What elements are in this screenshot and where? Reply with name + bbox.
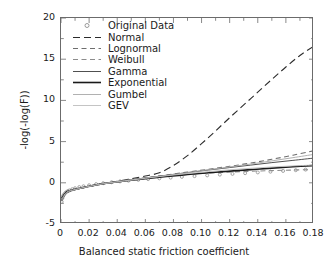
legend-label: Normal (102, 32, 144, 43)
legend-label: Exponential (102, 77, 167, 88)
y-axis-title: -log(-log(F)) (18, 17, 32, 223)
y-tick-label: 5 (29, 136, 55, 146)
legend-item[interactable]: Exponential (72, 77, 200, 88)
x-tick-label: 0.12 (218, 228, 239, 238)
chart-figure: -log(-log(F)) 20151050-5 00.020.040.060.… (0, 0, 328, 268)
x-tick-label: 0.14 (246, 228, 267, 238)
x-tick-label: 0.02 (78, 228, 99, 238)
series-gev (62, 165, 313, 199)
y-tick-label: 15 (29, 53, 55, 63)
legend-item[interactable]: Normal (72, 31, 200, 42)
legend-label: Original Data (102, 20, 174, 31)
chart-legend: Original DataNormalLognormalWeibullGamma… (72, 20, 200, 111)
x-tick-label: 0 (57, 228, 63, 238)
legend-line-icon (72, 54, 102, 65)
legend-label: Gamma (102, 66, 148, 77)
legend-label: Weibull (102, 54, 144, 65)
legend-item[interactable]: Gamma (72, 66, 200, 77)
y-tick-label: 10 (29, 94, 55, 104)
x-axis-title: Balanced static friction coefficient (0, 246, 328, 257)
series-exponential (62, 166, 313, 199)
legend-label: GEV (102, 100, 129, 111)
legend-line-icon (72, 89, 102, 100)
x-tick-label: 0.16 (274, 228, 295, 238)
series-gumbel (62, 154, 313, 201)
legend-label: Gumbel (102, 89, 147, 100)
x-tick-label: 0.10 (190, 228, 211, 238)
x-tick-label: 0.04 (106, 228, 127, 238)
legend-item[interactable]: GEV (72, 100, 200, 111)
legend-label: Lognormal (102, 43, 161, 54)
legend-item[interactable]: Gumbel (72, 88, 200, 99)
legend-item[interactable]: Lognormal (72, 43, 200, 54)
legend-line-icon (72, 43, 102, 54)
y-tick-label: 0 (29, 177, 55, 187)
legend-line-icon (72, 100, 102, 111)
series-gamma (62, 158, 313, 200)
legend-line-icon (72, 66, 102, 77)
x-tick-label: 0.06 (134, 228, 155, 238)
x-tick-label: 0.18 (302, 228, 323, 238)
y-tick-label: -5 (29, 218, 55, 228)
x-tick-label: 0.08 (162, 228, 183, 238)
legend-line-icon (72, 77, 102, 88)
legend-item[interactable]: Weibull (72, 54, 200, 65)
y-tick-label: 20 (29, 12, 55, 22)
legend-marker-icon (72, 20, 102, 31)
legend-line-icon (72, 32, 102, 43)
legend-item[interactable]: Original Data (72, 20, 200, 31)
